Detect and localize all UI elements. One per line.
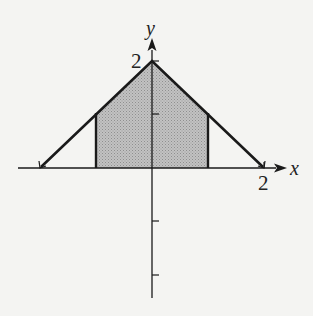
y-axis-label: y — [144, 17, 155, 40]
y-tick-label-2: 2 — [131, 49, 142, 73]
x-tick-label-2: 2 — [258, 171, 269, 195]
y-axis-arrow-icon — [148, 38, 157, 51]
x-axis-label: x — [289, 157, 299, 179]
graph: y 2 x 2 — [0, 0, 313, 316]
